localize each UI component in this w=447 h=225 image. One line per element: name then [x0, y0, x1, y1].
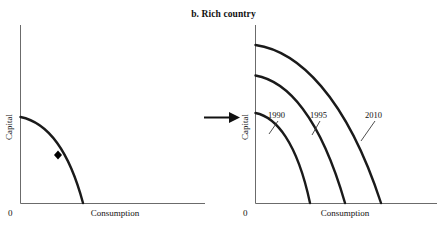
- leader-line-2010: [361, 121, 375, 141]
- y-axis-label-after: Capital: [240, 114, 250, 140]
- origin-label-after: 0: [243, 208, 248, 218]
- curve-frontier-1995: [256, 76, 346, 204]
- series-label-2010: 2010: [365, 110, 382, 120]
- y-axis-label-before: Capital: [4, 114, 14, 140]
- x-axis-label-before-wrapper: Consumption: [60, 208, 170, 218]
- x-axis-label-after-wrapper: Consumption: [290, 208, 400, 218]
- series-label-1995: 1995: [310, 110, 327, 120]
- y-axis-label-before-wrapper: Capital: [4, 102, 14, 152]
- y-axis-label-after-wrapper: Capital: [240, 102, 250, 152]
- panel-after: Capital 1990 1995 2010 0 Consumption: [236, 0, 447, 225]
- panel-before-plot: [0, 0, 215, 225]
- x-axis-label-after: Consumption: [321, 208, 370, 218]
- production-point-marker: [54, 151, 62, 160]
- origin-label-before: 0: [8, 208, 13, 218]
- figure-rich-country: b. Rich country Capital 0 Consumption: [0, 0, 447, 225]
- curve-frontier-1990: [256, 113, 311, 203]
- curve-initial-frontier: [21, 117, 84, 203]
- series-label-1990: 1990: [268, 110, 285, 120]
- x-axis-label-before: Consumption: [91, 208, 140, 218]
- panel-before: Capital 0 Consumption: [0, 0, 215, 225]
